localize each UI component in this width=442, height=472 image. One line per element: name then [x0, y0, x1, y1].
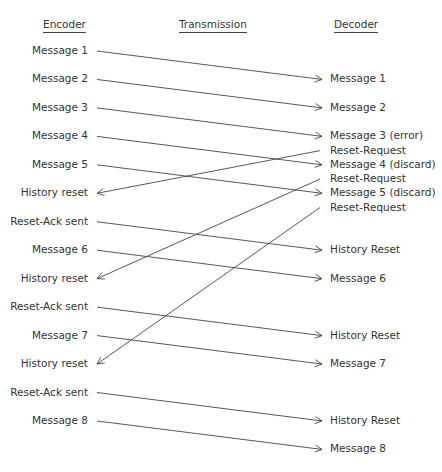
arrow-line [97, 208, 320, 365]
encoder-to-decoder-arrow [97, 79, 322, 110]
arrow-line [97, 136, 322, 164]
arrow-line [97, 151, 320, 194]
arrow-line [97, 307, 322, 335]
transmission-arrows [0, 0, 442, 472]
arrow-line [97, 250, 322, 278]
encoder-to-decoder-arrow [97, 51, 322, 82]
arrow-line [97, 165, 322, 193]
encoder-to-decoder-arrow [97, 393, 322, 424]
reset-request-arrow [97, 208, 320, 365]
arrow-line [97, 51, 322, 79]
arrow-line [97, 108, 322, 136]
arrow-line [97, 79, 322, 107]
encoder-to-decoder-arrow [97, 307, 322, 338]
arrow-line [97, 222, 322, 250]
encoder-to-decoder-arrow [97, 108, 322, 139]
encoder-to-decoder-arrow [97, 222, 322, 253]
arrow-line [97, 336, 322, 364]
encoder-to-decoder-arrow [97, 136, 322, 167]
encoder-to-decoder-arrow [97, 165, 322, 196]
encoder-to-decoder-arrow [97, 250, 322, 281]
arrow-line [97, 179, 320, 279]
encoder-to-decoder-arrow [97, 421, 322, 452]
arrow-line [97, 421, 322, 449]
encoder-to-decoder-arrow [97, 336, 322, 367]
arrow-line [97, 393, 322, 421]
